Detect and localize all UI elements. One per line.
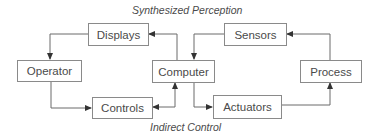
- edge-displays-operator: [50, 34, 88, 59]
- edge-operator-controls: [51, 81, 91, 108]
- node-process: Process: [300, 60, 362, 83]
- edge-actuators-process: [281, 83, 330, 105]
- node-displays: Displays: [88, 23, 149, 46]
- caption-synthesized-perception: Synthesized Perception: [132, 4, 242, 16]
- caption-indirect-control: Indirect Control: [150, 121, 221, 133]
- edge-process-sensors: [287, 34, 330, 60]
- node-sensors: Sensors: [224, 23, 287, 46]
- node-controls: Controls: [92, 97, 153, 119]
- node-operator: Operator: [17, 60, 82, 82]
- edge-sensors-computer: [194, 34, 224, 59]
- node-computer: Computer: [152, 60, 215, 83]
- edge-computer-displays: [149, 34, 177, 60]
- node-actuators: Actuators: [213, 95, 282, 119]
- edge-computer-actuators: [194, 82, 212, 107]
